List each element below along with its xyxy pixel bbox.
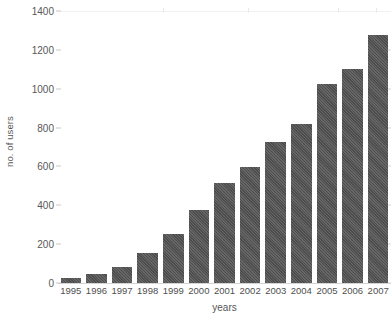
- top-edge-tick-mark: [376, 8, 377, 13]
- x-axis-tick-label: 1995: [60, 285, 81, 296]
- bar: [214, 183, 234, 283]
- y-axis-tick-mark: [56, 166, 61, 167]
- bar: [368, 35, 388, 283]
- y-axis-tick-mark: [56, 244, 61, 245]
- y-axis-tick-mark: [56, 283, 61, 284]
- y-axis-tick-mark: [56, 127, 61, 128]
- y-axis-tick-mark: [56, 205, 61, 206]
- x-axis-tick-labels: 1995199619971998199920002001200220032004…: [58, 285, 391, 301]
- x-axis-title: years: [58, 302, 391, 313]
- y-axis-tick-label: 200: [18, 239, 54, 250]
- x-axis-baseline: [58, 283, 391, 284]
- x-axis-tick-label: 2000: [188, 285, 209, 296]
- y-axis-tick-label: 1200: [18, 44, 54, 55]
- y-axis-tick-label: 400: [18, 200, 54, 211]
- bar: [291, 124, 311, 283]
- bar-chart: no. of users 0200400600800100012001400 1…: [0, 0, 391, 325]
- bar: [112, 267, 132, 284]
- bar: [317, 84, 337, 283]
- bar: [240, 167, 260, 283]
- y-axis-tick-label: 1400: [18, 6, 54, 17]
- x-axis-tick-label: 1997: [111, 285, 132, 296]
- x-axis-tick-label: 2002: [240, 285, 261, 296]
- top-rule: [58, 11, 391, 12]
- y-axis-tick-label: 0: [18, 278, 54, 289]
- bar: [137, 253, 157, 283]
- x-axis-tick-label: 1996: [86, 285, 107, 296]
- y-axis-tick-mark: [56, 11, 61, 12]
- top-edge-tick-mark: [248, 8, 249, 13]
- bar: [342, 69, 362, 283]
- x-axis-tick-label: 2005: [316, 285, 337, 296]
- x-axis-tick-label: 1998: [137, 285, 158, 296]
- y-axis-title-text: no. of users: [4, 116, 15, 167]
- x-axis-tick-label: 2006: [342, 285, 363, 296]
- bar: [265, 142, 285, 283]
- top-edge-tick-mark: [338, 8, 339, 13]
- bar: [163, 234, 183, 283]
- y-axis-tick-mark: [56, 88, 61, 89]
- y-axis-tick-label: 1000: [18, 83, 54, 94]
- x-axis-tick-label: 2001: [214, 285, 235, 296]
- y-axis-tick-label: 600: [18, 161, 54, 172]
- x-axis-tick-label: 2003: [265, 285, 286, 296]
- y-axis-tick-label: 800: [18, 122, 54, 133]
- x-axis-tick-label: 2004: [291, 285, 312, 296]
- y-axis-tick-mark: [56, 49, 61, 50]
- y-axis-tick-labels: 0200400600800100012001400: [18, 0, 54, 325]
- top-edge-tick-mark: [163, 8, 164, 13]
- x-axis-tick-label: 2007: [368, 285, 389, 296]
- plot-area: [58, 0, 391, 283]
- bar: [86, 274, 106, 283]
- bar: [189, 210, 209, 283]
- y-axis-title: no. of users: [0, 0, 18, 283]
- x-axis-tick-label: 1999: [163, 285, 184, 296]
